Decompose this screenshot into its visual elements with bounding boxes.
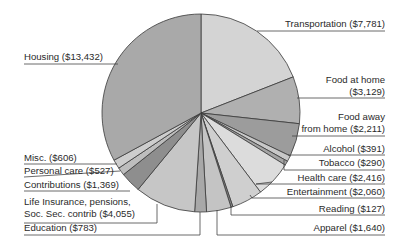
label-education: Education ($783) [24, 222, 97, 234]
label-life-insurance-line2: Soc. Sec. contrib ($4,055) [24, 208, 135, 220]
label-alcohol: Alcohol ($391) [323, 143, 385, 155]
label-misc: Misc. ($606) [24, 152, 77, 164]
label-health-care: Health care ($2,416) [298, 172, 385, 184]
label-food-at-home-line1: Food at home [326, 74, 385, 86]
label-tobacco: Tobacco ($290) [319, 157, 385, 169]
label-apparel: Apparel ($1,640) [314, 222, 385, 234]
label-food-away-line1: Food away [301, 111, 385, 123]
label-life-insurance-line1: Life Insurance, pensions, [24, 196, 135, 208]
label-life-insurance: Life Insurance, pensions, Soc. Sec. cont… [24, 196, 135, 220]
label-food-at-home-line2: ($3,129) [326, 86, 385, 98]
label-food-away: Food away from home ($2,211) [301, 111, 385, 135]
label-entertainment: Entertainment ($2,060) [287, 186, 385, 198]
label-food-away-line2: from home ($2,211) [301, 123, 385, 135]
label-personal-care: Personal care ($527) [24, 165, 114, 177]
label-transportation: Transportation ($7,781) [285, 18, 385, 30]
label-food-at-home: Food at home ($3,129) [326, 74, 385, 98]
label-reading: Reading ($127) [319, 203, 385, 215]
label-housing: Housing ($13,432) [24, 51, 103, 63]
label-contributions: Contributions ($1,369) [24, 179, 119, 191]
